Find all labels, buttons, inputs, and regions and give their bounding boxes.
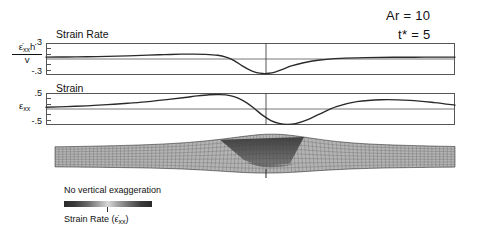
strain-plot — [46, 93, 455, 125]
strain-axis-label: εxx — [19, 100, 30, 112]
strain-tick-bottom: -.5 — [24, 116, 42, 126]
annotation-time: t* = 5 — [398, 27, 431, 42]
strain-tick-top: .5 — [28, 88, 42, 98]
strain-rate-plot — [46, 43, 455, 75]
no-vertical-exaggeration-note: No vertical exaggeration — [64, 185, 161, 195]
strain-rate-tick-top: .3 — [28, 37, 42, 47]
strain-rate-title: Strain Rate — [56, 28, 109, 40]
strain-rate-axis-denominator: v — [12, 55, 42, 65]
deformed-mesh-figure — [55, 133, 455, 178]
strain-rate-colorbar — [64, 201, 152, 207]
figure-root: Ar = 10 t* = 5 Strain Rate ε̇xxh v .3 -.… — [0, 0, 495, 238]
strain-rate-tick-bottom: -.3 — [24, 66, 42, 76]
mesh-body — [55, 134, 455, 173]
colorbar-center-tick — [107, 207, 108, 212]
strain-curve — [46, 95, 455, 125]
annotation-aspect-ratio: Ar = 10 — [386, 8, 430, 23]
colorbar-label: Strain Rate (ε̇xx) — [64, 214, 129, 225]
strain-rate-curve — [46, 54, 455, 73]
